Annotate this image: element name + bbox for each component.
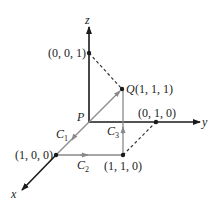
point-x1	[54, 153, 58, 157]
point-z1	[87, 51, 91, 55]
point-y1-label: (0, 1, 0)	[138, 106, 176, 120]
point-x1-label: (1, 0, 0)	[15, 148, 53, 162]
dashed-xy1-to-y1	[123, 122, 156, 155]
point-q	[120, 87, 124, 91]
point-y1	[154, 120, 158, 124]
c3-label: C3	[107, 124, 119, 140]
x-axis-label: x	[10, 187, 17, 201]
c1-label: C1	[56, 127, 68, 143]
origin-label: P	[76, 110, 85, 124]
point-z1-label: (0, 0, 1)	[48, 46, 86, 60]
point-q-letter: Q	[126, 82, 135, 96]
point-xy1	[121, 153, 125, 157]
dashed-z1-to-q	[89, 53, 122, 89]
segment-p-to-q	[89, 91, 120, 122]
c1-arrow	[72, 137, 74, 140]
vector-path-diagram: z y x P (0, 0, 1) Q (1, 1, 1) (0, 1, 0) …	[0, 0, 220, 211]
z-axis-label: z	[84, 13, 90, 27]
c2-label: C2	[77, 158, 89, 174]
y-axis-label: y	[201, 115, 208, 129]
point-xy1-label: (1, 1, 0)	[104, 159, 142, 173]
point-q-label: (1, 1, 1)	[135, 82, 173, 96]
